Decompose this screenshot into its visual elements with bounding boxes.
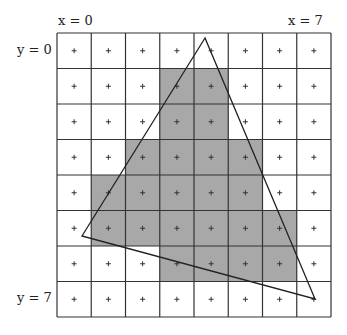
pixel-grid — [0, 0, 347, 335]
rasterization-diagram: x = 0 x = 7 y = 0 y = 7 — [0, 0, 347, 335]
